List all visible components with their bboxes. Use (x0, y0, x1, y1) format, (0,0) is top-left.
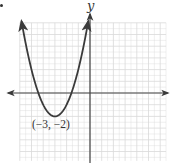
grid-lines (20, 23, 166, 161)
parabola-graph: y (−3, −2) (0, 0, 175, 163)
axes (8, 14, 168, 163)
y-axis-label: y (86, 0, 95, 13)
vertex-label: (−3, −2) (32, 118, 70, 131)
